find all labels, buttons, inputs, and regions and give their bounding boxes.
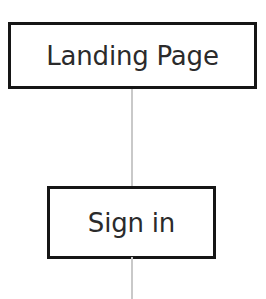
connector-landing-page-to-sign-in — [131, 86, 133, 188]
node-sign-in[interactable]: Sign in — [47, 186, 216, 259]
node-landing-page[interactable]: Landing Page — [8, 22, 257, 89]
diagram-canvas: Landing Page Sign in — [0, 0, 266, 299]
node-sign-in-label: Sign in — [88, 210, 175, 236]
connector-below-sign-in — [131, 257, 133, 299]
node-landing-page-label: Landing Page — [46, 43, 218, 69]
